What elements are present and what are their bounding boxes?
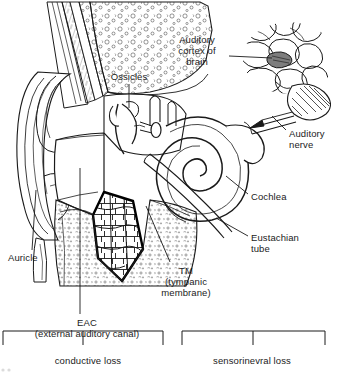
label-eustachian-tube: Eustachian tube bbox=[251, 232, 313, 254]
leader-eustachian-tube bbox=[216, 218, 248, 236]
label-cochlea: Cochlea bbox=[251, 191, 305, 202]
brain-inset bbox=[240, 8, 331, 120]
label-tympanic-membrane: TM (tympanic membrane) bbox=[152, 265, 220, 298]
bracket-sensorineural bbox=[182, 331, 325, 345]
page-edge-artifact bbox=[1, 368, 10, 371]
label-auditory-nerve: Auditory nerve bbox=[289, 128, 345, 150]
label-eac: EAC (external auditory canal) bbox=[28, 317, 146, 339]
ear-anatomy-figure: Auditory cortex of brain Ossicles Audito… bbox=[0, 0, 349, 374]
leader-auditory-cortex bbox=[229, 56, 272, 58]
caption-sensorineural-loss: sensorinevral loss bbox=[196, 355, 308, 366]
label-auditory-cortex: Auditory cortex of brain bbox=[166, 34, 228, 67]
label-ossicles: Ossicles bbox=[102, 71, 156, 82]
label-auricle: Auricle bbox=[8, 252, 56, 263]
caption-conductive-loss: conductive loss bbox=[38, 355, 138, 366]
